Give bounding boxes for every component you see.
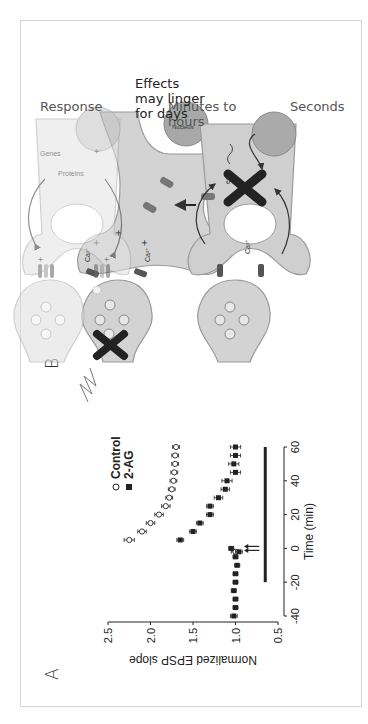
- svg-text:Ca²⁺: Ca²⁺: [244, 239, 251, 254]
- stage-minutes-to-hours: es Ca²⁺: [188, 112, 310, 362]
- svg-text:+: +: [36, 257, 46, 262]
- svg-text:+: +: [138, 240, 150, 246]
- figure-stage: A 0.51.01.52.02.5-40-200204060Time (min)…: [0, 0, 368, 724]
- lightning-icon: [80, 368, 96, 402]
- figure-caption: Effects may linger for days: [135, 76, 211, 121]
- stage-label-seconds: Seconds: [290, 99, 345, 114]
- svg-text:es: es: [224, 176, 231, 184]
- svg-text:Proteins: Proteins: [58, 170, 84, 177]
- stage-label-response: Response: [40, 99, 102, 114]
- svg-text:+: +: [92, 149, 102, 154]
- svg-text:Ca²⁺: Ca²⁺: [144, 247, 151, 262]
- svg-text:Genes: Genes: [40, 150, 61, 157]
- svg-text:+: +: [102, 257, 112, 262]
